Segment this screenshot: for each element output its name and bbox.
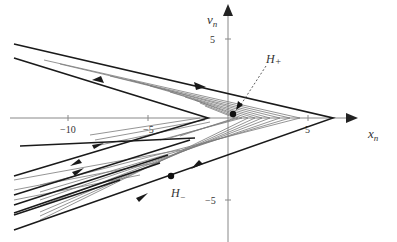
y-axis-label: vn <box>207 12 218 29</box>
arrow-right-icon <box>136 193 148 202</box>
arrow-left-icon <box>70 159 82 166</box>
x-axis-arrow-icon <box>346 113 358 123</box>
y-axis-arrow-icon <box>223 4 233 16</box>
x-axis-label: xn <box>367 126 379 143</box>
h-minus-label: H− <box>170 186 186 202</box>
arrow-left-icon <box>191 160 203 169</box>
axes: −10 −5 5 5 −5 vn xn <box>10 4 379 242</box>
point-h-plus <box>230 111 236 117</box>
point-h-minus <box>168 173 174 179</box>
h-plus-label: H+ <box>265 52 281 67</box>
arrow-right-icon <box>92 143 104 149</box>
phase-portrait-figure: −10 −5 5 5 −5 vn xn <box>0 0 397 242</box>
y-tick-label: 5 <box>210 34 215 45</box>
x-tick-label: −10 <box>60 124 76 135</box>
y-tick-label: −5 <box>205 195 216 206</box>
